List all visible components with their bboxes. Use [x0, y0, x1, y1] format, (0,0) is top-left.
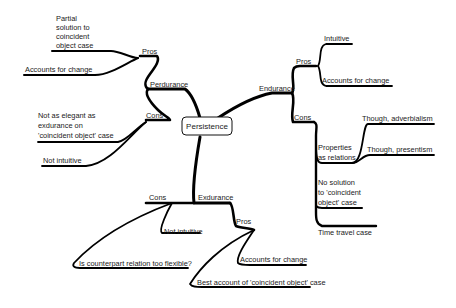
leaf-best-account[interactable]: Best account of 'coincident object' case — [197, 278, 326, 287]
leaf-time-travel[interactable]: Time travel case — [318, 228, 372, 237]
node-endurance-cons[interactable]: Cons — [294, 113, 312, 122]
node-exdurance-cons[interactable]: Cons — [149, 193, 167, 202]
node-endurance-pros[interactable]: Pros — [296, 57, 312, 66]
leaf-accounts-for-change-x[interactable]: Accounts for change — [240, 255, 307, 264]
edge-pros-intuitive — [318, 44, 352, 66]
leaf-properties-as-relations[interactable]: Properties as relations — [318, 143, 356, 162]
leaf-intuitive[interactable]: Intuitive — [324, 34, 349, 43]
leaf-line: exdurance on — [38, 121, 83, 130]
branch-endurance: Endurance Pros Cons Intuitive Accounts f… — [259, 34, 433, 237]
leaf-line: solution to — [56, 23, 90, 32]
leaf-counterpart-relation[interactable]: Is counterpart relation too flexible? — [79, 259, 192, 268]
branch-exdurance: Exdurance Cons Pros Not intuitive Is cou… — [79, 193, 326, 287]
leaf-line: object case — [56, 41, 93, 50]
root-node[interactable]: Persistence — [182, 117, 232, 135]
node-perdurance-cons[interactable]: Cons — [146, 111, 164, 120]
leaf-not-intuitive[interactable]: Not intuitive — [43, 156, 82, 165]
root-node-label: Persistence — [186, 122, 228, 131]
leaf-line: as relations — [318, 153, 356, 162]
mind-map: Persistence Perdurance Pros Cons Partial… — [0, 0, 456, 308]
leaf-line: Partial — [56, 14, 77, 23]
edge-cons-trunk — [314, 122, 376, 226]
leaf-accounts-for-change[interactable]: Accounts for change — [25, 65, 92, 74]
leaf-line: 'coincident object' case — [38, 131, 114, 140]
leaf-line: coincident — [56, 32, 89, 41]
leaf-no-solution[interactable]: No solution to 'coincident object' case — [318, 178, 361, 207]
node-exdurance-pros[interactable]: Pros — [236, 217, 252, 226]
leaf-accounts-for-change-e[interactable]: Accounts for change — [322, 76, 389, 85]
leaf-partial-solution[interactable]: Partial solution to coincident object ca… — [56, 14, 93, 50]
leaf-not-intuitive-x[interactable]: Not intuitive — [164, 227, 203, 236]
node-perdurance-pros[interactable]: Pros — [142, 47, 158, 56]
node-perdurance[interactable]: Perdurance — [150, 80, 188, 89]
leaf-though-adverbialism[interactable]: Though, adverbialism — [362, 114, 433, 123]
leaf-line: Not as elegant as — [38, 111, 96, 120]
edge-presentism — [352, 155, 434, 163]
leaf-though-presentism[interactable]: Though, presentism — [367, 145, 432, 154]
leaf-line: to 'coincident — [318, 188, 361, 197]
edge-endurance-pros — [292, 66, 316, 93]
node-endurance[interactable]: Endurance — [259, 84, 295, 93]
edge-pros-partial — [52, 51, 138, 58]
leaf-line: No solution — [318, 178, 355, 187]
leaf-line: Properties — [318, 143, 352, 152]
leaf-not-as-elegant[interactable]: Not as elegant as exdurance on 'coincide… — [38, 111, 114, 140]
edge-root-endurance — [218, 93, 292, 118]
node-exdurance[interactable]: Exdurance — [198, 193, 233, 202]
leaf-line: object' case — [318, 198, 357, 207]
